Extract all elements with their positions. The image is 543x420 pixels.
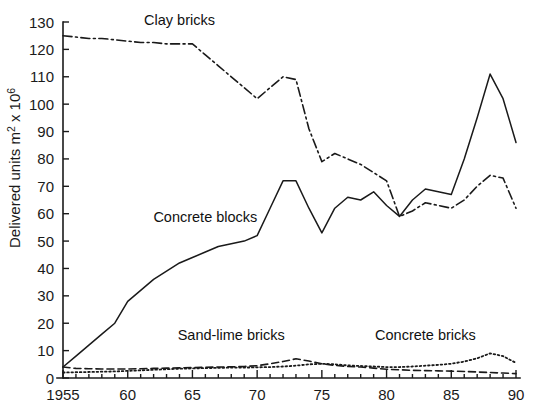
y-tick-label: 120 bbox=[29, 41, 54, 58]
x-axis-ticks: 195560657075808590 bbox=[46, 370, 524, 403]
y-tick-label: 90 bbox=[37, 123, 54, 140]
x-tick-label: 70 bbox=[249, 386, 266, 403]
y-tick-label: 130 bbox=[29, 14, 54, 31]
series-annotations: Clay bricksConcrete blocksSand-lime bric… bbox=[144, 12, 476, 343]
series-label-sand-lime-bricks: Sand-lime bricks bbox=[178, 327, 285, 343]
data-series bbox=[63, 36, 516, 374]
y-tick-label: 40 bbox=[37, 260, 54, 277]
y-tick-label: 20 bbox=[37, 315, 54, 332]
axis-lines bbox=[57, 22, 520, 378]
y-tick-label: 80 bbox=[37, 150, 54, 167]
x-tick-label: 75 bbox=[314, 386, 331, 403]
y-tick-label: 50 bbox=[37, 233, 54, 250]
series-label-concrete-blocks: Concrete blocks bbox=[153, 209, 257, 225]
y-tick-label: 0 bbox=[46, 370, 54, 387]
y-tick-label: 70 bbox=[37, 178, 54, 195]
x-tick-label: 85 bbox=[443, 386, 460, 403]
series-label-concrete-bricks: Concrete bricks bbox=[375, 327, 476, 343]
x-tick-label: 1955 bbox=[46, 386, 79, 403]
y-tick-label: 100 bbox=[29, 96, 54, 113]
y-axis-title-text: Delivered units m2 x 106 bbox=[5, 88, 23, 248]
chart-page: Delivered units m2 x 106 010203040506070… bbox=[0, 0, 543, 420]
y-tick-label: 60 bbox=[37, 205, 54, 222]
y-axis-title: Delivered units m2 x 106 bbox=[5, 88, 23, 248]
x-tick-label: 80 bbox=[378, 386, 395, 403]
y-tick-label: 30 bbox=[37, 287, 54, 304]
x-tick-label: 60 bbox=[119, 386, 136, 403]
series-line-clay-bricks bbox=[63, 36, 516, 217]
x-tick-label: 65 bbox=[184, 386, 201, 403]
y-tick-label: 10 bbox=[37, 342, 54, 359]
series-label-clay-bricks: Clay bricks bbox=[144, 12, 215, 28]
y-tick-label: 110 bbox=[30, 68, 54, 85]
series-line-concrete-blocks bbox=[63, 74, 516, 367]
x-tick-label: 90 bbox=[508, 386, 525, 403]
line-chart: Delivered units m2 x 106 010203040506070… bbox=[0, 0, 543, 420]
